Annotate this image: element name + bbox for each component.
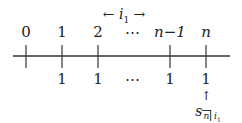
payment-label-1: 1 <box>57 72 67 87</box>
time-label-ellipsis: ⋯ <box>125 25 140 40</box>
symbol-base: s <box>195 103 202 119</box>
payment-label-2: 1 <box>93 72 103 87</box>
accumulated-value-symbol: sn i1 <box>195 104 221 123</box>
up-arrow-icon: ↑ <box>201 89 211 104</box>
payment-label-n: 1 <box>201 72 211 87</box>
time-label-1: 1 <box>57 25 67 40</box>
symbol-angle: n <box>202 110 211 121</box>
time-label-0: 0 <box>21 25 31 40</box>
time-label-2: 2 <box>93 25 103 40</box>
time-label-n: n <box>201 25 211 40</box>
payment-label-ellipsis: ⋯ <box>125 72 140 87</box>
payment-label-n-minus-1: 1 <box>165 72 175 87</box>
left-arrow-icon: ← <box>103 6 115 22</box>
time-label-n-minus-1: n−1 <box>154 25 186 40</box>
right-arrow-icon: → <box>134 6 146 22</box>
symbol-rate-subscript: 1 <box>217 116 221 123</box>
